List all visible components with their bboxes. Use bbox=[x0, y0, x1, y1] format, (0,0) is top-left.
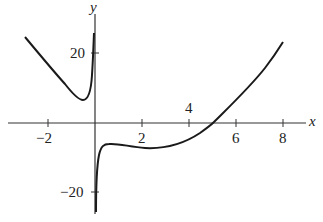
y-axis-label: y bbox=[90, 0, 97, 15]
y-tick-label-neg20: −20 bbox=[60, 185, 83, 200]
x-tick-label-6: 6 bbox=[232, 131, 240, 146]
x-tick-label-neg2: −2 bbox=[36, 131, 52, 146]
chart-plot bbox=[0, 0, 323, 222]
x-tick-label-8: 8 bbox=[279, 131, 287, 146]
curve-left-branch bbox=[25, 33, 94, 100]
x-tick-label-2: 2 bbox=[138, 131, 146, 146]
x-tick-label-4: 4 bbox=[185, 101, 193, 116]
y-tick-label-20: 20 bbox=[70, 46, 85, 61]
x-axis-label: x bbox=[309, 114, 316, 129]
